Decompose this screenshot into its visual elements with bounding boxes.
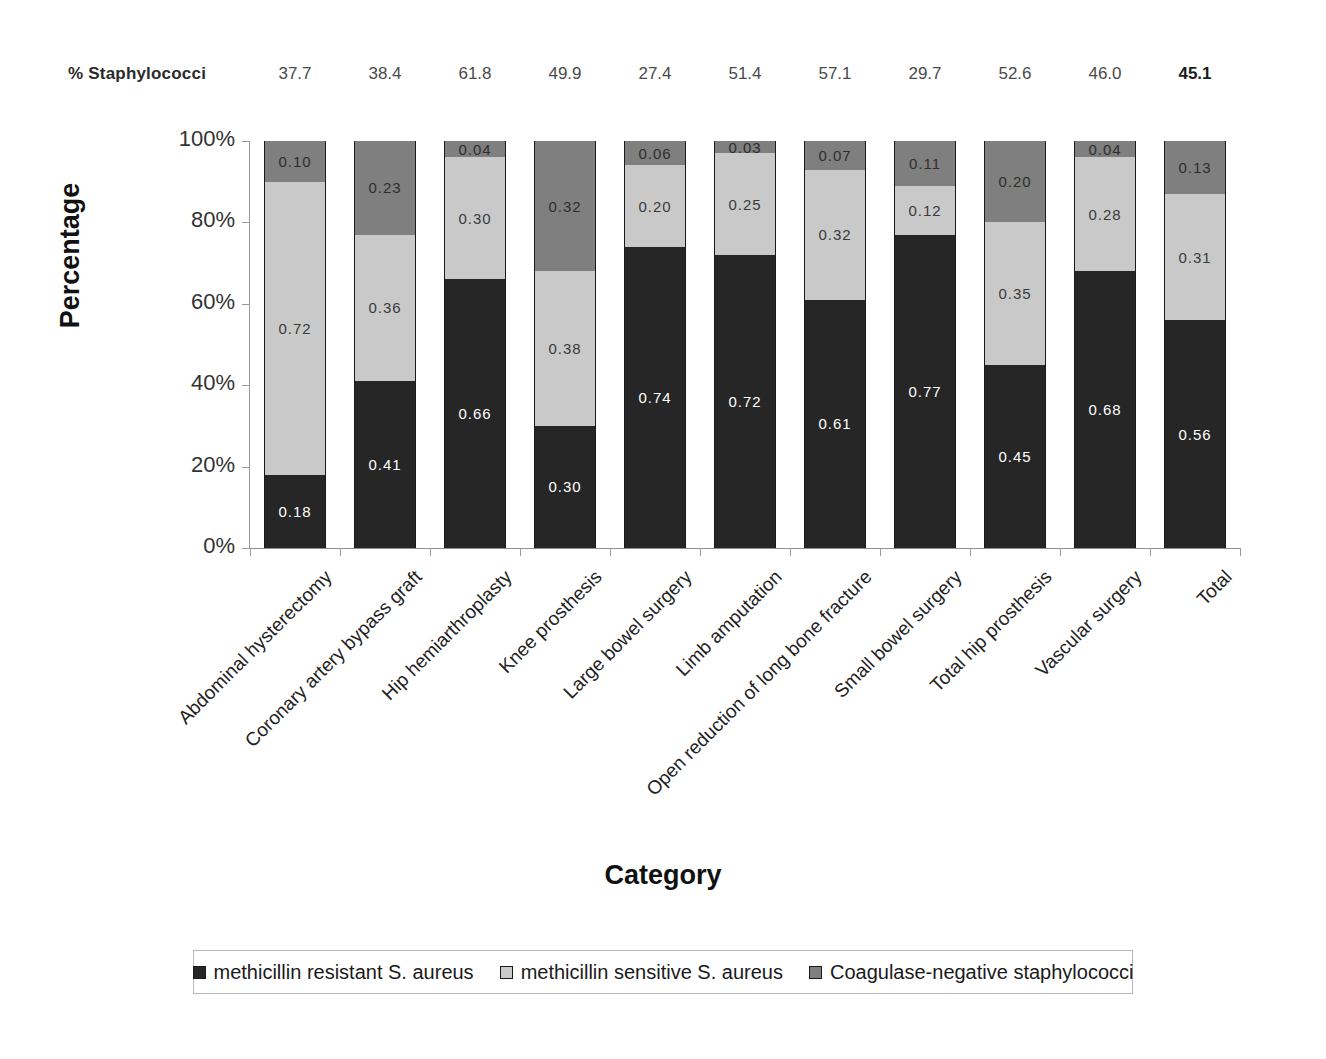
bar-segment[interactable]: 0.12 bbox=[895, 186, 955, 235]
bar-segment[interactable]: 0.10 bbox=[265, 141, 325, 182]
x-axis-category-label: Coronary artery bypass graft bbox=[0, 566, 427, 1006]
y-axis-tick bbox=[242, 385, 250, 386]
bar-segment[interactable]: 0.25 bbox=[715, 153, 775, 255]
x-axis-tick bbox=[700, 548, 701, 556]
bar-segment[interactable]: 0.41 bbox=[355, 381, 415, 548]
x-axis-tick bbox=[790, 548, 791, 556]
stacked-bar[interactable]: 0.680.280.04 bbox=[1074, 141, 1136, 548]
staphylococci-value: 45.1 bbox=[1155, 64, 1235, 84]
bar-segment[interactable]: 0.77 bbox=[895, 235, 955, 548]
y-axis-tick bbox=[242, 548, 250, 549]
y-axis-line bbox=[249, 141, 250, 548]
bar-segment[interactable]: 0.30 bbox=[445, 157, 505, 279]
bar-segment[interactable]: 0.35 bbox=[985, 222, 1045, 364]
bar-segment[interactable]: 0.32 bbox=[535, 141, 595, 271]
legend-label: Coagulase-negative staphylococci bbox=[830, 961, 1134, 984]
x-axis-category-label: Large bowel surgery bbox=[257, 566, 697, 1006]
staphylococci-value: 46.0 bbox=[1065, 64, 1145, 84]
x-axis-tick bbox=[520, 548, 521, 556]
legend-item[interactable]: methicillin resistant S. aureus bbox=[193, 961, 474, 984]
y-axis-tick bbox=[242, 222, 250, 223]
bar-segment-label: 0.32 bbox=[818, 226, 851, 243]
y-axis-tick bbox=[242, 141, 250, 142]
x-axis-line bbox=[249, 548, 1240, 549]
stacked-bar[interactable]: 0.300.380.32 bbox=[534, 141, 596, 548]
bar-segment[interactable]: 0.72 bbox=[265, 182, 325, 475]
bar-segment-label: 0.30 bbox=[548, 478, 581, 495]
bar-segment-label: 0.31 bbox=[1178, 249, 1211, 266]
bar-segment[interactable]: 0.30 bbox=[535, 426, 595, 548]
chart-page: % Staphylococci 37.738.461.849.927.451.4… bbox=[0, 0, 1326, 1059]
x-axis-tick bbox=[970, 548, 971, 556]
x-axis-category-label: Hip hemiarthroplasty bbox=[77, 566, 517, 1006]
bar-segment[interactable]: 0.18 bbox=[265, 475, 325, 548]
bar-segment[interactable]: 0.11 bbox=[895, 141, 955, 186]
bar-segment-label: 0.07 bbox=[818, 147, 851, 164]
bar-segment-label: 0.36 bbox=[368, 299, 401, 316]
y-axis-tick-label: 40% bbox=[125, 370, 235, 396]
stacked-bar[interactable]: 0.660.300.04 bbox=[444, 141, 506, 548]
bar-segment[interactable]: 0.23 bbox=[355, 141, 415, 235]
bar-segment[interactable]: 0.74 bbox=[625, 247, 685, 548]
x-axis-category-label: Small bowel surgery bbox=[527, 566, 967, 1006]
bar-segment[interactable]: 0.13 bbox=[1165, 141, 1225, 194]
bar-segment[interactable]: 0.07 bbox=[805, 141, 865, 169]
y-axis-title: Percentage bbox=[55, 116, 86, 396]
staphylococci-value: 37.7 bbox=[255, 64, 335, 84]
legend-label: methicillin resistant S. aureus bbox=[214, 961, 474, 984]
bar-segment[interactable]: 0.20 bbox=[985, 141, 1045, 222]
bar-segment[interactable]: 0.04 bbox=[1075, 141, 1135, 157]
bar-segment-label: 0.72 bbox=[728, 393, 761, 410]
stacked-bar[interactable]: 0.560.310.13 bbox=[1164, 141, 1226, 548]
bar-segment-label: 0.45 bbox=[998, 448, 1031, 465]
stacked-bar[interactable]: 0.610.320.07 bbox=[804, 141, 866, 548]
bar-segment-label: 0.12 bbox=[908, 202, 941, 219]
bar-segment[interactable]: 0.38 bbox=[535, 271, 595, 426]
bar-segment-label: 0.18 bbox=[278, 503, 311, 520]
staphylococci-value: 57.1 bbox=[795, 64, 875, 84]
bar-segment[interactable]: 0.45 bbox=[985, 365, 1045, 548]
bar-segment-label: 0.35 bbox=[998, 285, 1031, 302]
bar-segment-label: 0.06 bbox=[638, 145, 671, 162]
legend-item[interactable]: Coagulase-negative staphylococci bbox=[809, 961, 1134, 984]
staphylococci-row-label: % Staphylococci bbox=[68, 64, 206, 84]
bar-segment[interactable]: 0.28 bbox=[1075, 157, 1135, 271]
stacked-bar[interactable]: 0.450.350.20 bbox=[984, 141, 1046, 548]
bar-segment[interactable]: 0.72 bbox=[715, 255, 775, 548]
bar-segment-label: 0.23 bbox=[368, 179, 401, 196]
bar-segment[interactable]: 0.31 bbox=[1165, 194, 1225, 320]
bar-segment-label: 0.04 bbox=[458, 141, 491, 158]
stacked-bar[interactable]: 0.720.250.03 bbox=[714, 141, 776, 548]
bar-segment-label: 0.25 bbox=[728, 196, 761, 213]
bar-segment-label: 0.28 bbox=[1088, 206, 1121, 223]
bar-segment[interactable]: 0.06 bbox=[625, 141, 685, 165]
bar-segment-label: 0.68 bbox=[1088, 401, 1121, 418]
bar-segment-label: 0.77 bbox=[908, 383, 941, 400]
staphylococci-value: 61.8 bbox=[435, 64, 515, 84]
x-axis-tick bbox=[1150, 548, 1151, 556]
x-axis-category-label: Total bbox=[797, 566, 1237, 1006]
bar-segment[interactable]: 0.20 bbox=[625, 165, 685, 246]
bar-segment[interactable]: 0.68 bbox=[1075, 271, 1135, 548]
x-axis-category-label: Knee prosthesis bbox=[167, 566, 607, 1006]
stacked-bar[interactable]: 0.180.720.10 bbox=[264, 141, 326, 548]
bar-segment[interactable]: 0.32 bbox=[805, 170, 865, 300]
x-axis-tick bbox=[880, 548, 881, 556]
bar-segment-label: 0.13 bbox=[1178, 159, 1211, 176]
stacked-bar[interactable]: 0.770.120.11 bbox=[894, 141, 956, 548]
bar-segment[interactable]: 0.66 bbox=[445, 279, 505, 548]
bar-segment[interactable]: 0.04 bbox=[445, 141, 505, 157]
bar-segment[interactable]: 0.03 bbox=[715, 141, 775, 153]
bar-segment[interactable]: 0.56 bbox=[1165, 320, 1225, 548]
bar-segment[interactable]: 0.36 bbox=[355, 235, 415, 382]
bar-segment-label: 0.20 bbox=[998, 173, 1031, 190]
stacked-bar[interactable]: 0.740.200.06 bbox=[624, 141, 686, 548]
bar-segment-label: 0.04 bbox=[1088, 141, 1121, 158]
bar-segment-label: 0.11 bbox=[909, 155, 941, 172]
x-axis-tick bbox=[430, 548, 431, 556]
bar-segment-label: 0.30 bbox=[458, 210, 491, 227]
bar-segment[interactable]: 0.61 bbox=[805, 300, 865, 548]
y-axis-tick bbox=[242, 467, 250, 468]
stacked-bar[interactable]: 0.410.360.23 bbox=[354, 141, 416, 548]
bar-segment-label: 0.61 bbox=[818, 415, 851, 432]
